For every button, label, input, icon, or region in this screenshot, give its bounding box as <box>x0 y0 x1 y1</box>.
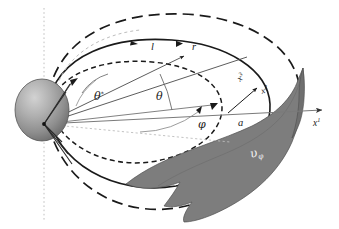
label-x1: x1 <box>312 116 320 128</box>
inner-dashed-orbit <box>49 61 222 163</box>
x2-axis <box>228 88 257 113</box>
orbit-direction-arrow-left <box>130 41 138 46</box>
label-phi: φ <box>198 118 206 131</box>
x3-axis <box>44 57 247 124</box>
label-x3: x3 <box>233 70 247 84</box>
phi-arc <box>140 112 198 132</box>
orbital-diagram-figure: θ* θ φ l r a x3 x2 x1 υφ <box>0 0 339 229</box>
label-ell: l <box>151 41 154 52</box>
label-theta-star: θ* <box>94 90 104 103</box>
theta-star-arc-outer <box>76 80 96 106</box>
a-vector-arrowhead <box>210 103 218 110</box>
sphere-centre-point <box>42 122 46 126</box>
velocity-surface <box>126 68 304 222</box>
label-theta: θ <box>156 90 163 103</box>
diagram-canvas: θ* θ φ l r a x3 x2 x1 υφ <box>0 0 339 229</box>
l-vector-arrowhead <box>70 78 78 86</box>
label-a: a <box>238 117 243 128</box>
